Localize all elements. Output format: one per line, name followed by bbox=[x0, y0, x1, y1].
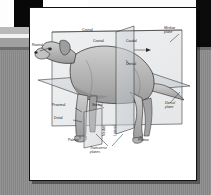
label-ventral: Ventral bbox=[92, 103, 103, 107]
label-dorsal-plane: Dorsal plane bbox=[165, 101, 175, 109]
label-plantar: Plantar bbox=[138, 138, 149, 142]
label-rostral: Rostral bbox=[32, 43, 43, 47]
background-white-block-top-left bbox=[0, 0, 14, 26]
label-lateral: Lateral bbox=[113, 125, 117, 136]
label-palmar: Palmar bbox=[68, 138, 79, 142]
anatomical-figure-card: Cranial Rostral Cranial Caudal Dorsal Me… bbox=[29, 7, 197, 181]
transverse-plane-limb-shape bbox=[84, 108, 102, 148]
background-black-strip-right bbox=[196, 0, 211, 47]
label-cranial-plane: Cranial bbox=[93, 39, 104, 43]
label-median-plane: Median plane bbox=[164, 26, 175, 34]
screenshot-root: Cranial Rostral Cranial Caudal Dorsal Me… bbox=[0, 0, 211, 195]
label-distal: Distal bbox=[54, 116, 63, 120]
label-transverse-planes: Transverse planes bbox=[90, 146, 107, 154]
label-cranial-top: Cranial bbox=[82, 28, 93, 32]
label-caudal-plane: Caudal bbox=[126, 39, 137, 43]
label-proximal: Proximal bbox=[52, 103, 65, 107]
label-medial: Medial bbox=[102, 126, 106, 136]
label-dorsal-back: Dorsal bbox=[126, 62, 136, 66]
